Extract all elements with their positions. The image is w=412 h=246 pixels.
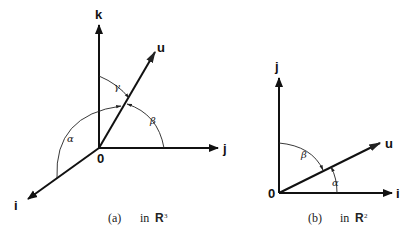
alpha-label: α: [67, 133, 74, 144]
i-axis: [28, 148, 99, 199]
u-vector: [99, 52, 155, 148]
u-vector-label: u: [385, 136, 393, 151]
caption-b-dimension: 2: [364, 212, 368, 220]
caption-b: (b) in R 2: [308, 211, 368, 225]
caption-a-text: in: [140, 211, 149, 225]
i-axis-label: i: [396, 186, 400, 201]
diagram-canvas: k j i u 0 γ β α (a) in R 3 j i u 0 β α (…: [0, 0, 412, 246]
i-axis-label: i: [14, 198, 18, 213]
alpha-label: α: [332, 177, 339, 188]
beta-arc: [127, 104, 164, 148]
k-axis-label: k: [95, 7, 103, 22]
j-axis-label: j: [274, 59, 279, 74]
figure-a: k j i u 0 γ β α (a) in R 3: [14, 7, 227, 225]
caption-b-tag: (b): [308, 211, 322, 225]
beta-label: β: [149, 115, 156, 126]
figure-b: j i u 0 β α (b) in R 2: [268, 59, 400, 225]
caption-b-text: in: [340, 211, 349, 225]
u-vector-label: u: [157, 40, 165, 55]
origin-label: 0: [268, 186, 275, 201]
u-vector: [279, 143, 380, 193]
caption-a-space: R: [155, 211, 164, 225]
caption-a-dimension: 3: [164, 212, 168, 220]
beta-label: β: [300, 149, 307, 160]
caption-b-space: R: [355, 211, 364, 225]
caption-a: (a) in R 3: [108, 211, 168, 225]
j-axis-label: j: [222, 141, 227, 156]
gamma-label: γ: [114, 81, 120, 92]
caption-a-tag: (a): [108, 211, 121, 225]
origin-label: 0: [97, 151, 104, 166]
